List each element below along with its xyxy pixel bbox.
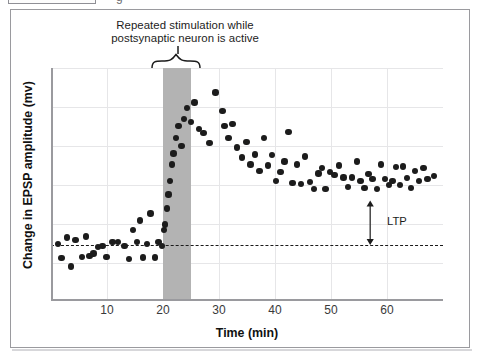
x-axis-line [51,299,443,301]
x-tick-label: 30 [212,303,225,317]
figure-frame-shadow [12,349,472,351]
y-axis-line [51,68,53,300]
x-tick-label: 20 [156,303,169,317]
cropped-toolbar-artifact [8,0,96,4]
ltp-arrow-icon [51,68,443,300]
figure-page: g Repeated stimulation while postsynapti… [0,0,482,363]
x-axis-label: Time (min) [51,326,443,340]
cropped-glyph-artifact: g [116,0,123,3]
x-tick-label: 40 [268,303,281,317]
x-tick-label: 10 [100,303,113,317]
caption-line-1: Repeated stimulation while [70,19,300,32]
stimulation-caption: Repeated stimulation while postsynaptic … [70,19,300,46]
ltp-label: LTP [387,215,407,227]
x-tick-label: 50 [324,303,337,317]
plot-area: LTP [51,68,443,300]
stimulation-brace [150,46,206,70]
y-axis-label: Change in EPSP amplitude (mv) [21,10,35,340]
x-tick-label: 60 [380,303,393,317]
caption-line-2: postsynaptic neuron is active [70,32,300,45]
brace-icon [150,46,206,70]
